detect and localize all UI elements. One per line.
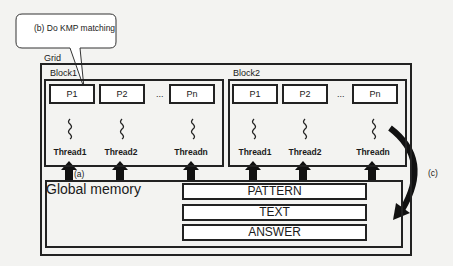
block1-p2: P2: [99, 84, 145, 104]
block2-thread2: Thread2: [275, 147, 335, 157]
block2-threadn: Threadn: [343, 147, 403, 157]
block2-p2: P2: [282, 84, 328, 104]
block1-pn: Pn: [169, 84, 215, 104]
annotation-c: (c): [428, 168, 438, 178]
callout-text: (b) Do KMP matching: [34, 23, 115, 33]
block1-p1: P1: [49, 84, 95, 104]
memory-text: TEXT: [182, 204, 367, 221]
grid-label: Grid: [44, 53, 61, 63]
block2-p1: P1: [232, 84, 278, 104]
block2-pn: Pn: [352, 84, 398, 104]
annotation-a: (a): [74, 169, 84, 179]
block1-thread2: Thread2: [91, 147, 151, 157]
block1-threadn: Threadn: [161, 147, 221, 157]
block2-ellipsis: ...: [337, 89, 345, 99]
global-memory-label: Global memory: [46, 181, 141, 197]
memory-answer: ANSWER: [182, 224, 367, 241]
memory-pattern: PATTERN: [182, 183, 367, 200]
block1-label: Block1: [50, 68, 77, 78]
block2-label: Block2: [233, 68, 260, 78]
block1-ellipsis: ...: [156, 89, 164, 99]
